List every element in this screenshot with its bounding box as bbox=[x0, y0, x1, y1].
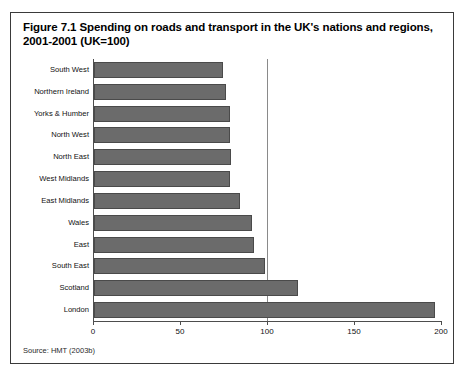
category-label-east: East bbox=[0, 240, 89, 250]
bar-fill bbox=[94, 62, 223, 78]
bar-fill bbox=[94, 106, 230, 122]
xtick-label-200: 200 bbox=[434, 327, 447, 336]
y-axis-category-labels: South WestNorthern IrelandYorks & Humber… bbox=[0, 59, 89, 321]
bar-northern-ireland bbox=[94, 84, 226, 100]
xtick-mark-50 bbox=[180, 321, 181, 325]
xtick-mark-150 bbox=[354, 321, 355, 325]
bar-fill bbox=[94, 280, 298, 296]
bar-wales bbox=[94, 215, 252, 231]
bar-yorks-humber bbox=[94, 106, 230, 122]
xtick-label-100: 100 bbox=[260, 327, 273, 336]
xtick-mark-200 bbox=[441, 321, 442, 325]
category-label-north-east: North East bbox=[0, 152, 89, 162]
bar-north-east bbox=[94, 149, 231, 165]
bar-east-midlands bbox=[94, 193, 240, 209]
category-label-south-west: South West bbox=[0, 65, 89, 75]
bar-fill bbox=[94, 149, 231, 165]
figure-title: Figure 7.1 Spending on roads and transpo… bbox=[23, 20, 447, 48]
bar-north-west bbox=[94, 127, 230, 143]
xtick-label-0: 0 bbox=[91, 327, 95, 336]
xtick-mark-0 bbox=[93, 321, 94, 325]
category-label-west-midlands: West Midlands bbox=[0, 174, 89, 184]
xtick-label-150: 150 bbox=[347, 327, 360, 336]
bar-fill bbox=[94, 215, 252, 231]
bar-scotland bbox=[94, 280, 298, 296]
figure-frame: Figure 7.1 Spending on roads and transpo… bbox=[10, 12, 454, 364]
bar-fill bbox=[94, 193, 240, 209]
category-label-south-east: South East bbox=[0, 261, 89, 271]
bar-west-midlands bbox=[94, 171, 230, 187]
bar-south-west bbox=[94, 62, 223, 78]
bar-fill bbox=[94, 127, 230, 143]
category-label-east-midlands: East Midlands bbox=[0, 196, 89, 206]
bar-fill bbox=[94, 171, 230, 187]
bar-south-east bbox=[94, 258, 265, 274]
chart-plot-area: South WestNorthern IrelandYorks & Humber… bbox=[93, 59, 441, 321]
bar-fill bbox=[94, 237, 254, 253]
xtick-label-50: 50 bbox=[176, 327, 185, 336]
bar-london bbox=[94, 302, 435, 318]
category-label-yorks-humber: Yorks & Humber bbox=[0, 109, 89, 119]
bar-east bbox=[94, 237, 254, 253]
bar-fill bbox=[94, 302, 435, 318]
source-note: Source: HMT (2003b) bbox=[23, 346, 95, 355]
category-label-london: London bbox=[0, 305, 89, 315]
bar-fill bbox=[94, 258, 265, 274]
category-label-scotland: Scotland bbox=[0, 283, 89, 293]
category-label-north-west: North West bbox=[0, 130, 89, 140]
xtick-mark-100 bbox=[267, 321, 268, 325]
bar-fill bbox=[94, 84, 226, 100]
category-label-wales: Wales bbox=[0, 218, 89, 228]
category-label-northern-ireland: Northern Ireland bbox=[0, 87, 89, 97]
